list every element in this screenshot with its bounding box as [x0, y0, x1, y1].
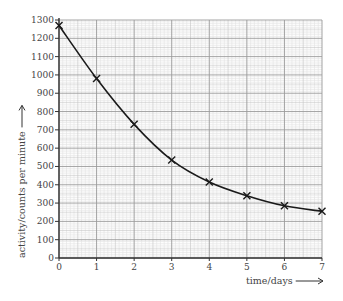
y-tick-label: 200: [37, 216, 54, 226]
y-tick-label: 700: [37, 125, 54, 135]
y-tick-label: 100: [37, 235, 54, 245]
grid-mid: [59, 20, 322, 258]
y-tick-label: 1300: [31, 15, 54, 25]
x-tick-label: 0: [56, 262, 62, 272]
x-tick-label: 5: [244, 262, 250, 272]
y-tick-label: 1200: [31, 33, 54, 43]
y-axis-arrow-icon: [19, 105, 25, 127]
y-axis-label: activity/counts per minute: [16, 131, 27, 258]
x-tick-label: 3: [169, 262, 175, 272]
y-tick-label: 0: [48, 253, 54, 263]
y-tick-label: 600: [37, 143, 54, 153]
x-tick-label: 6: [282, 262, 288, 272]
y-tick-label: 1000: [31, 70, 54, 80]
x-tick-label: 7: [319, 262, 325, 272]
x-tick-label: 4: [206, 262, 212, 272]
y-tick-label: 300: [37, 198, 54, 208]
x-tick-labels: 01234567: [56, 262, 325, 272]
y-tick-label: 1100: [31, 52, 54, 62]
y-tick-label: 900: [37, 88, 54, 98]
axes: [55, 18, 322, 261]
decay-chart: 0100200300400500600700800900100011001200…: [0, 0, 343, 301]
y-tick-label: 500: [37, 161, 54, 171]
y-tick-label: 800: [37, 107, 54, 117]
x-tick-label: 1: [94, 262, 100, 272]
x-tick-label: 2: [131, 262, 137, 272]
y-tick-labels: 0100200300400500600700800900100011001200…: [31, 15, 54, 263]
x-axis-arrow-icon: [296, 278, 323, 284]
x-axis-label: time/days: [246, 275, 293, 286]
y-tick-label: 400: [37, 180, 54, 190]
y-axis-title: activity/counts per minute: [16, 131, 27, 258]
